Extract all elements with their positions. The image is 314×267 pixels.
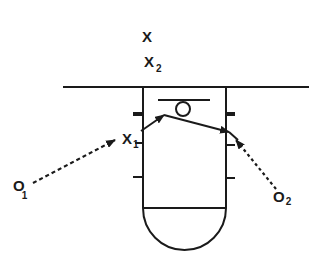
o2-arrow-tail — [229, 132, 238, 140]
label-o2-main: O — [273, 188, 285, 205]
label-x1-main: X — [122, 130, 132, 147]
label-o2-sub: 2 — [286, 196, 292, 207]
dashed-arrow-o2 — [236, 140, 276, 189]
label-o2: O2 — [273, 188, 292, 207]
label-x: X — [142, 28, 152, 45]
label-x2: X2 — [144, 53, 162, 74]
label-x2-sub: 2 — [156, 63, 162, 74]
circle-marker — [176, 102, 190, 116]
label-x1: X1 — [122, 130, 139, 150]
bottom-bowl — [143, 208, 226, 250]
arrow-x1-to-apex — [141, 115, 164, 131]
diagram-canvas: X X2 X1 O1 O2 — [0, 0, 314, 267]
label-x2-main: X — [144, 53, 154, 70]
label-o1-sub: 1 — [22, 190, 28, 201]
label-o1: O1 — [13, 177, 28, 201]
label-x1-sub: 1 — [133, 139, 139, 150]
dashed-arrow-o1 — [33, 140, 115, 183]
arrow-apex-to-right — [164, 115, 229, 132]
